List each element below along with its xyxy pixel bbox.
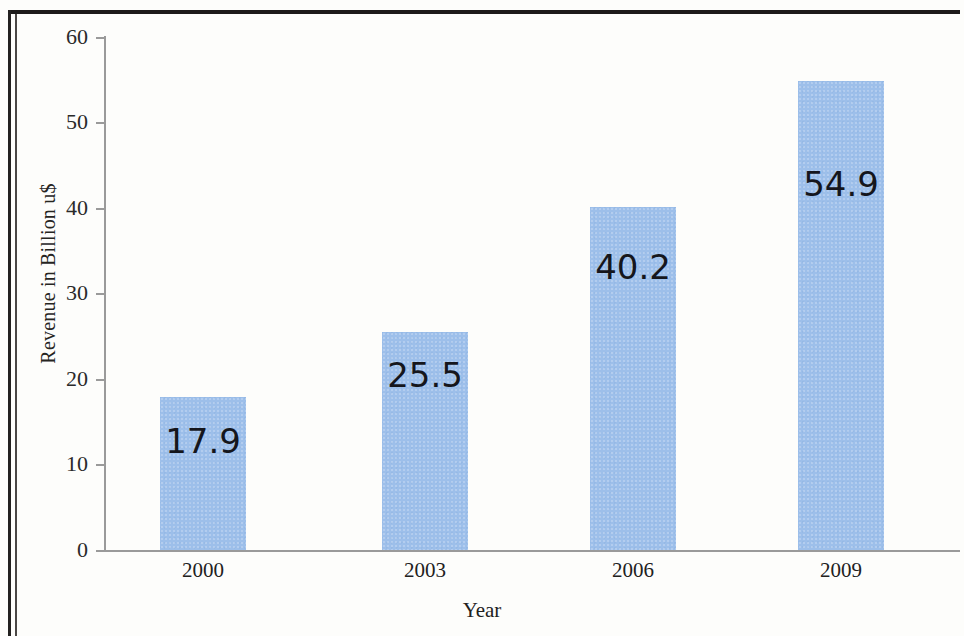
bar-label-2000: 17.9 (160, 424, 246, 458)
y-tick-label-50: 50 (44, 111, 88, 133)
y-tick-40 (96, 208, 105, 210)
y-tick-60 (96, 37, 105, 39)
y-tick-10 (96, 464, 105, 466)
bar-2000 (160, 397, 246, 550)
bar-label-2003: 25.5 (382, 358, 468, 392)
bar-label-2009: 54.9 (798, 167, 884, 201)
x-tick-label-2009: 2009 (781, 560, 901, 581)
y-tick-30 (96, 293, 105, 295)
y-axis-title: Revenue in Billion u$ (37, 154, 60, 394)
y-tick-50 (96, 122, 105, 124)
x-tick-label-2006: 2006 (573, 560, 693, 581)
plot-area: 60 50 40 30 20 10 0 Revenue in Billion u… (0, 0, 964, 636)
bar-label-2006: 40.2 (590, 250, 676, 284)
y-tick-20 (96, 379, 105, 381)
y-tick-label-60: 60 (44, 26, 88, 48)
y-tick-label-10: 10 (44, 453, 88, 475)
x-axis-line (104, 550, 960, 552)
chart-figure: 60 50 40 30 20 10 0 Revenue in Billion u… (0, 0, 964, 636)
y-tick-label-0: 0 (44, 539, 88, 561)
x-tick-label-2003: 2003 (365, 560, 485, 581)
bar-2009 (798, 81, 884, 550)
x-tick-label-2000: 2000 (143, 560, 263, 581)
x-axis-title: Year (0, 598, 964, 623)
